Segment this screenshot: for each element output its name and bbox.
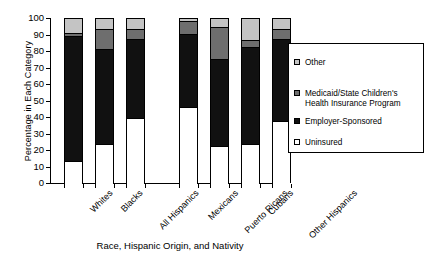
bar-all-hispanics[interactable] <box>126 18 145 183</box>
plot-inner: 0102030405060708090100 <box>50 18 287 184</box>
y-tick-label: 50 <box>18 95 44 106</box>
bar-segment-medicaid-state-children-s-health-insurance-program <box>127 29 144 39</box>
bar-segment-uninsured <box>180 107 197 184</box>
y-axis-line <box>50 18 51 184</box>
plot-area: 0102030405060708090100 <box>50 18 287 184</box>
legend-item-medicaid-state-children-s[interactable]: Medicaid/State Children's Health Insuran… <box>294 89 401 108</box>
y-tick-label: 10 <box>18 161 44 172</box>
legend-swatch <box>294 139 300 145</box>
y-tick-label: 0 <box>18 177 44 188</box>
x-tick-label-all-hispanics: All Hispanics <box>157 188 201 232</box>
x-tick-mark <box>198 184 199 188</box>
x-tick-mark <box>64 184 65 188</box>
bar-segment-employer-sponsored <box>127 39 144 118</box>
bar-mexicans[interactable] <box>179 18 198 183</box>
bar-segment-uninsured <box>211 146 228 184</box>
x-tick-mark <box>210 184 211 188</box>
legend-swatch <box>294 118 300 124</box>
bar-blacks[interactable] <box>95 18 114 183</box>
bar-segment-uninsured <box>127 118 144 184</box>
bar-segment-employer-sponsored <box>65 36 82 161</box>
y-tick-label: 20 <box>18 144 44 155</box>
bar-segment-uninsured <box>242 144 259 184</box>
y-tick-label: 30 <box>18 128 44 139</box>
bar-segment-uninsured <box>96 144 113 184</box>
chart-legend: OtherMedicaid/State Children's Health In… <box>288 43 424 153</box>
legend-label: Medicaid/State Children's Health Insuran… <box>305 89 401 108</box>
bar-segment-other <box>127 19 144 29</box>
x-tick-label-other-hispanics: Other Hispanics <box>306 188 358 240</box>
x-tick-mark <box>114 184 115 188</box>
bar-segment-medicaid-state-children-s-health-insurance-program <box>273 29 290 39</box>
y-tick-mark <box>46 134 50 135</box>
y-tick-label: 80 <box>18 45 44 56</box>
x-tick-label-mexicans: Mexicans <box>206 188 240 222</box>
x-tick-mark <box>272 184 273 188</box>
y-tick-mark <box>46 150 50 151</box>
legend-label: Other <box>305 58 325 68</box>
x-tick-mark <box>145 184 146 188</box>
x-tick-mark <box>95 184 96 188</box>
bar-cubans[interactable] <box>241 18 260 183</box>
x-tick-mark <box>179 184 180 188</box>
bar-segment-other <box>211 19 228 27</box>
legend-label: Uninsured <box>305 138 342 148</box>
bar-segment-other <box>96 19 113 29</box>
legend-item-other[interactable]: Other <box>294 58 325 68</box>
x-tick-mark <box>260 184 261 188</box>
bar-segment-employer-sponsored <box>96 49 113 145</box>
x-axis-title: Race, Hispanic Origin, and Nativity <box>50 240 290 251</box>
bar-segment-employer-sponsored <box>180 34 197 107</box>
y-tick-label: 70 <box>18 62 44 73</box>
bar-segment-uninsured <box>65 161 82 184</box>
legend-item-employer-sponsored[interactable]: Employer-Sponsored <box>294 117 382 127</box>
bar-segment-medicaid-state-children-s-health-insurance-program <box>211 27 228 59</box>
bar-segment-employer-sponsored <box>211 59 228 146</box>
bar-puerto-ricans[interactable] <box>210 18 229 183</box>
y-tick-mark <box>46 18 50 19</box>
legend-label: Employer-Sponsored <box>305 117 382 127</box>
y-tick-mark <box>46 51 50 52</box>
bar-segment-medicaid-state-children-s-health-insurance-program <box>96 29 113 49</box>
y-tick-mark <box>46 117 50 118</box>
y-tick-mark <box>46 68 50 69</box>
bar-whites[interactable] <box>64 18 83 183</box>
legend-swatch <box>294 90 300 96</box>
chart-figure: Percentage in Each Category 010203040506… <box>0 0 431 263</box>
bar-segment-other <box>65 19 82 33</box>
y-tick-mark <box>46 183 50 184</box>
legend-swatch <box>294 59 300 65</box>
y-tick-label: 100 <box>18 12 44 23</box>
x-tick-mark <box>229 184 230 188</box>
y-tick-mark <box>46 167 50 168</box>
y-tick-label: 40 <box>18 111 44 122</box>
x-tick-label-blacks: Blacks <box>118 188 144 214</box>
y-tick-mark <box>46 84 50 85</box>
bar-segment-other <box>273 19 290 29</box>
bar-segment-medicaid-state-children-s-health-insurance-program <box>180 21 197 33</box>
bar-segment-employer-sponsored <box>242 47 259 144</box>
legend-item-uninsured[interactable]: Uninsured <box>294 138 342 148</box>
x-tick-mark <box>126 184 127 188</box>
bar-segment-medicaid-state-children-s-health-insurance-program <box>242 40 259 47</box>
x-tick-mark <box>83 184 84 188</box>
y-tick-mark <box>46 101 50 102</box>
y-tick-label: 60 <box>18 78 44 89</box>
y-tick-label: 90 <box>18 29 44 40</box>
y-tick-mark <box>46 35 50 36</box>
x-tick-label-whites: Whites <box>88 188 115 215</box>
x-tick-mark <box>241 184 242 188</box>
bar-segment-other <box>242 19 259 40</box>
x-tick-mark <box>291 184 292 188</box>
